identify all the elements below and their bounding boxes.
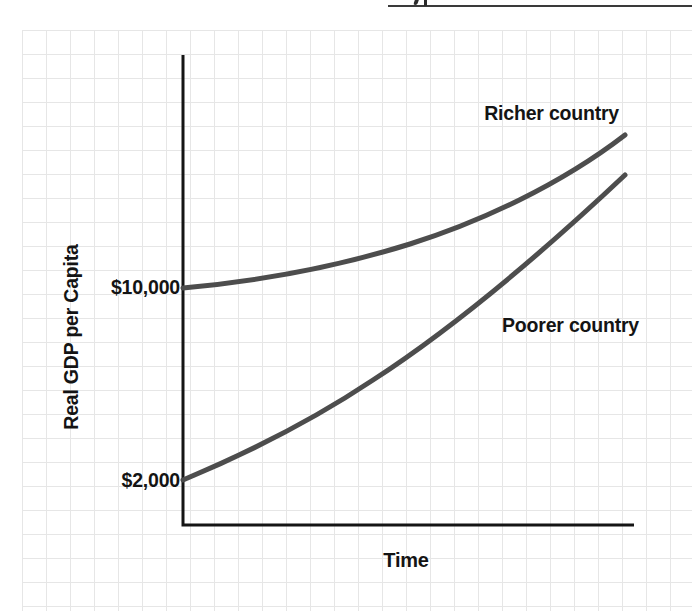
x-axis-title: Time <box>383 549 429 571</box>
y-tick-label-10000: $10,000 <box>111 276 180 298</box>
richer-country-curve <box>183 135 625 288</box>
y-axis-title: Real GDP per Capita <box>60 244 82 430</box>
gdp-convergence-chart: $10,000 $2,000 Richer country Poorer cou… <box>0 0 692 611</box>
screenshot-root: $10,000 $2,000 Richer country Poorer cou… <box>0 0 692 611</box>
richer-country-label: Richer country <box>484 102 619 124</box>
poorer-country-label: Poorer country <box>502 314 639 336</box>
axes <box>183 55 634 525</box>
y-tick-label-2000: $2,000 <box>122 469 181 491</box>
